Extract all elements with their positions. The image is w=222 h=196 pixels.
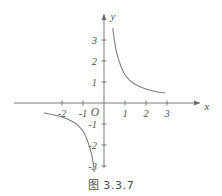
x-axis [14,101,200,106]
x-axis-arrow [194,101,200,106]
y-axis-arrow [102,14,107,20]
curve-branch-quadrant-1 [113,28,165,92]
x-axis-label: x [204,100,210,112]
figure-caption: 图 3.3.7 [0,172,222,196]
hyperbola-plot: -2 -1 1 2 3 3 2 1 -1 -2 -3 O x y [0,0,222,172]
y-axis-label: y [110,10,116,22]
x-tick-label--1: -1 [79,108,88,119]
figure-container: -2 -1 1 2 3 3 2 1 -1 -2 -3 O x y 图 3.3.7 [0,0,222,196]
plot-area: -2 -1 1 2 3 3 2 1 -1 -2 -3 O x y [0,0,222,172]
y-tick-label--2: -2 [88,140,97,151]
y-tick-label-2: 2 [92,56,98,67]
origin-label: O [91,106,100,118]
y-tick-label-3: 3 [91,35,97,46]
x-tick-label-2: 2 [143,108,149,119]
y-tick-label-1: 1 [92,77,97,88]
x-tick-label-1: 1 [122,108,127,119]
x-tick-label-3: 3 [163,108,169,119]
y-tick-label--1: -1 [88,119,97,130]
